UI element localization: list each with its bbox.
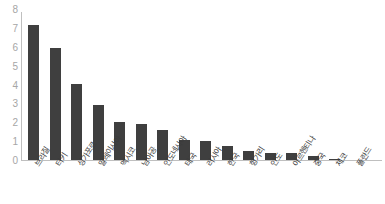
y-tick-label: 6 <box>12 43 18 53</box>
y-tick-label: 1 <box>12 137 18 147</box>
y-tick-label: 5 <box>12 62 18 72</box>
bar <box>93 105 104 161</box>
y-tick-label: 3 <box>12 99 18 109</box>
y-axis: 012345678 <box>0 0 22 204</box>
bar <box>50 48 61 161</box>
y-tick-label: 8 <box>12 5 18 15</box>
y-tick-label: 7 <box>12 24 18 34</box>
bar <box>71 84 82 161</box>
plot-area <box>22 10 382 161</box>
bar <box>28 25 39 161</box>
y-tick-label: 4 <box>12 81 18 91</box>
y-tick-label: 0 <box>12 156 18 166</box>
bar-chart: 012345678 브라질터키싱가포르말레이시아멕시코남아공인도네시아태국러시아… <box>0 0 385 204</box>
x-axis: 브라질터키싱가포르말레이시아멕시코남아공인도네시아태국러시아한국헝가리인도아르헨… <box>22 161 382 204</box>
y-tick-label: 2 <box>12 118 18 128</box>
